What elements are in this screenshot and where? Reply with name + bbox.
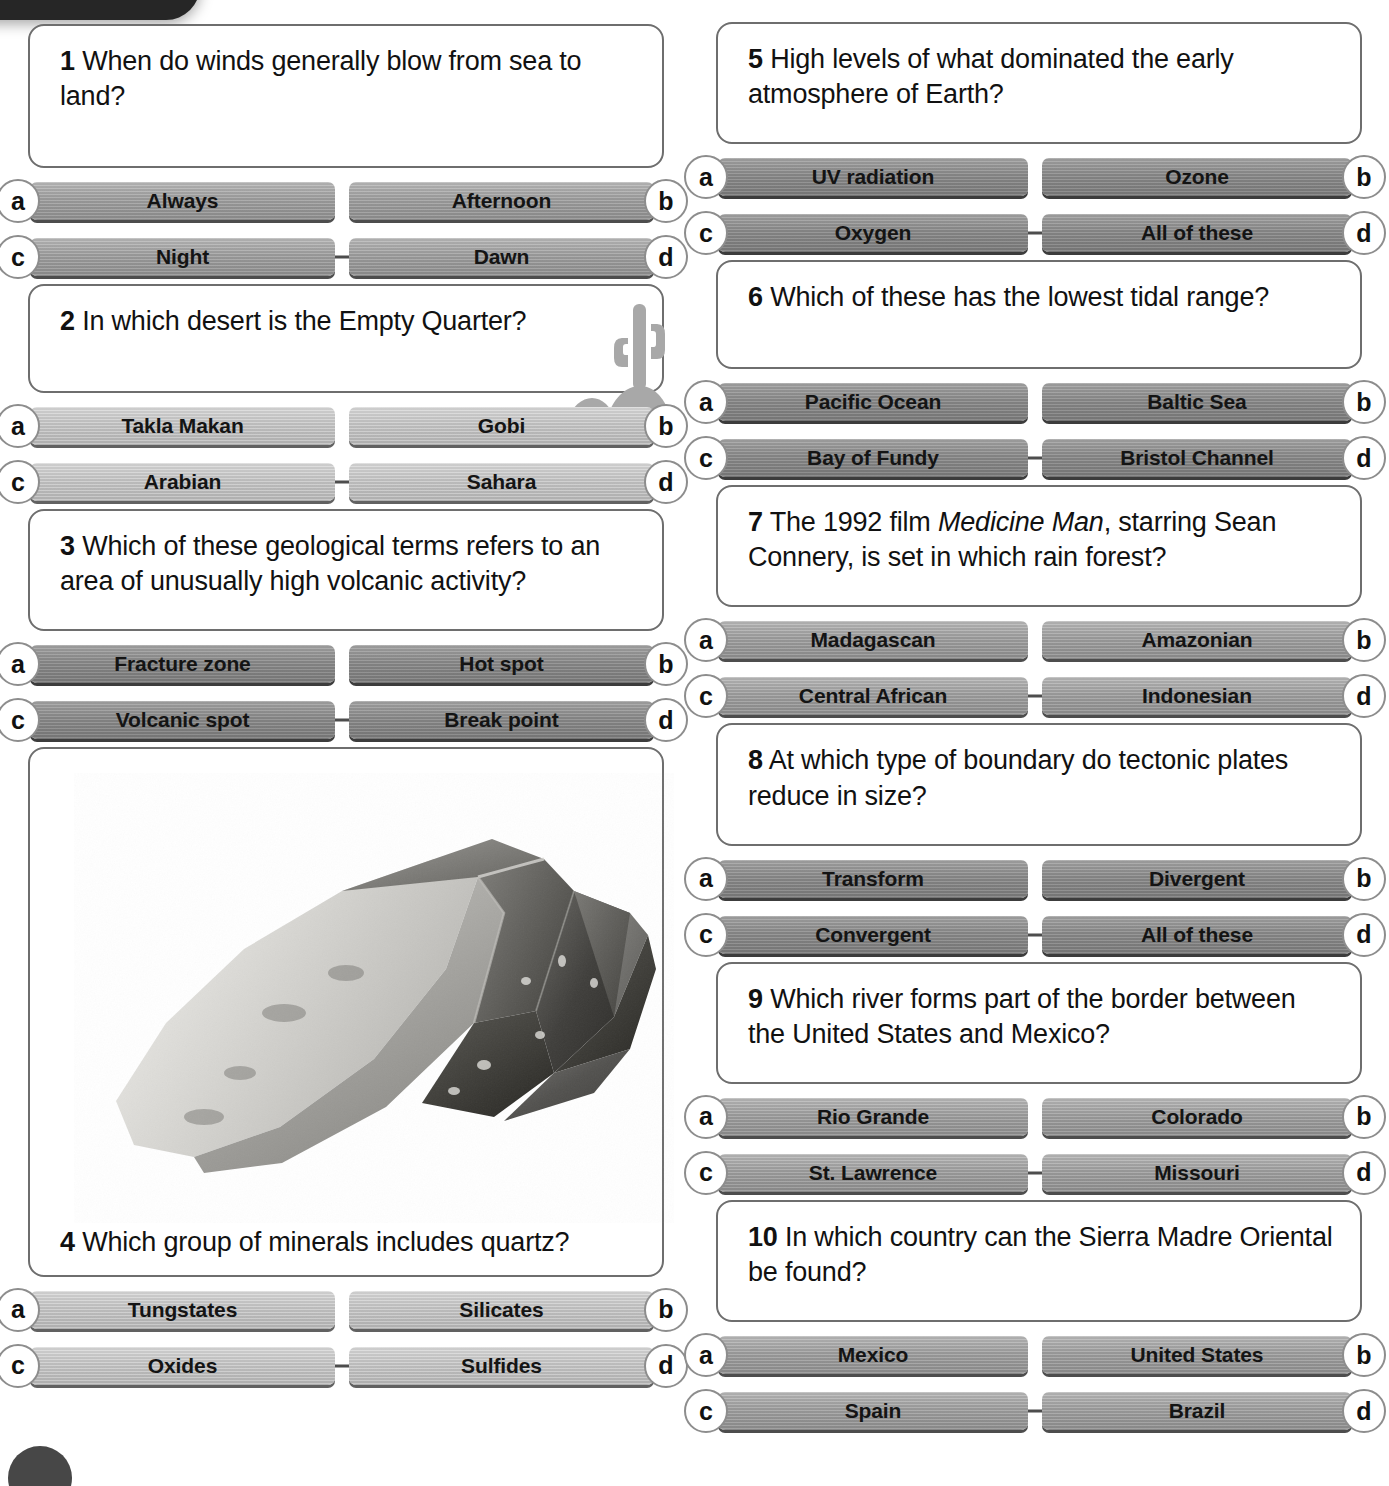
question-number: 8: [748, 745, 763, 775]
card-spacer: [748, 814, 1338, 844]
card-spacer: [748, 1290, 1338, 1320]
answer-button-c[interactable]: Night: [30, 238, 335, 276]
answer-button-d[interactable]: All of these: [1042, 214, 1352, 252]
answer-button-c[interactable]: Spain: [718, 1392, 1028, 1430]
answer-row: aPacific OceanBaltic Seab: [684, 375, 1386, 429]
answer-button-a[interactable]: Pacific Ocean: [718, 383, 1028, 421]
answer-row: cArabianSaharad: [0, 455, 688, 509]
option-badge-d: d: [644, 698, 688, 742]
question-text: 8 At which type of boundary do tectonic …: [748, 743, 1338, 813]
question-number: 5: [748, 44, 763, 74]
answer-button-c[interactable]: Bay of Fundy: [718, 439, 1028, 477]
option-badge-d: d: [1342, 913, 1386, 957]
answer-options: aUV radiationOzonebcOxygenAll of thesed: [684, 150, 1386, 260]
answer-button-b[interactable]: Afternoon: [349, 182, 654, 220]
question-text: 4 Which group of minerals includes quart…: [60, 1225, 640, 1260]
answer-row: cNightDawnd: [0, 230, 688, 284]
question-card: 10 In which country can the Sierra Madre…: [716, 1200, 1362, 1322]
question-illustration: [60, 763, 640, 1225]
answer-row: cVolcanic spotBreak pointd: [0, 693, 688, 747]
answer-options: aTakla MakanGobibcArabianSaharad: [0, 399, 688, 509]
card-spacer: [748, 575, 1338, 605]
answer-button-d[interactable]: All of these: [1042, 916, 1352, 954]
answer-button-a[interactable]: Transform: [718, 860, 1028, 898]
question-text-part: In which desert is the Empty Quarter?: [82, 306, 526, 336]
question-text-part: Which of these geological terms refers t…: [60, 531, 600, 596]
option-badge-b: b: [1342, 857, 1386, 901]
answer-button-a[interactable]: Takla Makan: [30, 407, 335, 445]
answer-button-c[interactable]: Central African: [718, 677, 1028, 715]
question-text: 2 In which desert is the Empty Quarter?: [60, 304, 640, 339]
quartz-crystal-photo: [74, 773, 674, 1223]
answer-button-d[interactable]: Sulfides: [349, 1347, 654, 1385]
card-spacer: [60, 599, 640, 629]
answer-button-b[interactable]: Ozone: [1042, 158, 1352, 196]
answer-button-b[interactable]: Amazonian: [1042, 621, 1352, 659]
option-badge-d: d: [644, 235, 688, 279]
answer-button-d[interactable]: Sahara: [349, 463, 654, 501]
question-text-italic: Medicine Man: [938, 507, 1104, 537]
answer-button-c[interactable]: Oxygen: [718, 214, 1028, 252]
question-number: 3: [60, 531, 75, 561]
option-badge-b: b: [644, 179, 688, 223]
question-card: 8 At which type of boundary do tectonic …: [716, 723, 1362, 845]
answer-options: aMadagascanAmazonianbcCentral AfricanInd…: [684, 613, 1386, 723]
quiz-columns: 1 When do winds generally blow from sea …: [0, 0, 1389, 1486]
option-badge-b: b: [1342, 1333, 1386, 1377]
answer-button-d[interactable]: Indonesian: [1042, 677, 1352, 715]
answer-button-d[interactable]: Missouri: [1042, 1154, 1352, 1192]
answer-button-a[interactable]: Rio Grande: [718, 1098, 1028, 1136]
answer-button-a[interactable]: Always: [30, 182, 335, 220]
answer-row: cSpainBrazild: [684, 1384, 1386, 1438]
answer-row: aAlwaysAfternoonb: [0, 174, 688, 228]
answer-button-b[interactable]: United States: [1042, 1336, 1352, 1374]
answer-button-c[interactable]: Convergent: [718, 916, 1028, 954]
answer-button-b[interactable]: Hot spot: [349, 645, 654, 683]
question-card: 6 Which of these has the lowest tidal ra…: [716, 260, 1362, 369]
answer-button-b[interactable]: Divergent: [1042, 860, 1352, 898]
answer-options: aPacific OceanBaltic SeabcBay of FundyBr…: [684, 375, 1386, 485]
answer-options: aAlwaysAfternoonbcNightDawnd: [0, 174, 688, 284]
option-badge-a: a: [684, 380, 728, 424]
answer-row: aMadagascanAmazonianb: [684, 613, 1386, 667]
option-badge-d: d: [1342, 1389, 1386, 1433]
option-badge-a: a: [684, 1333, 728, 1377]
answer-button-c[interactable]: Arabian: [30, 463, 335, 501]
option-badge-d: d: [1342, 436, 1386, 480]
answer-button-b[interactable]: Colorado: [1042, 1098, 1352, 1136]
option-badge-a: a: [0, 1288, 40, 1332]
question-number: 10: [748, 1222, 778, 1252]
answer-button-a[interactable]: Madagascan: [718, 621, 1028, 659]
answer-button-d[interactable]: Break point: [349, 701, 654, 739]
card-spacer: [748, 112, 1338, 142]
answer-row: cOxidesSulfidesd: [0, 1339, 688, 1393]
answer-button-d[interactable]: Bristol Channel: [1042, 439, 1352, 477]
answer-button-d[interactable]: Dawn: [349, 238, 654, 276]
card-spacer: [60, 114, 640, 166]
option-badge-c: c: [684, 913, 728, 957]
answer-button-d[interactable]: Brazil: [1042, 1392, 1352, 1430]
question-text-part: High levels of what dominated the early …: [748, 44, 1234, 109]
question-card: 4 Which group of minerals includes quart…: [28, 747, 664, 1276]
answer-button-b[interactable]: Silicates: [349, 1291, 654, 1329]
option-badge-d: d: [644, 460, 688, 504]
question-text: 5 High levels of what dominated the earl…: [748, 42, 1338, 112]
answer-button-a[interactable]: Mexico: [718, 1336, 1028, 1374]
answer-button-b[interactable]: Baltic Sea: [1042, 383, 1352, 421]
question-text-part: Which river forms part of the border bet…: [748, 984, 1296, 1049]
answer-button-a[interactable]: Fracture zone: [30, 645, 335, 683]
card-spacer: [60, 339, 640, 391]
answer-row: cSt. LawrenceMissourid: [684, 1146, 1386, 1200]
answer-button-c[interactable]: Volcanic spot: [30, 701, 335, 739]
answer-button-c[interactable]: Oxides: [30, 1347, 335, 1385]
answer-button-c[interactable]: St. Lawrence: [718, 1154, 1028, 1192]
question-text-part: Which of these has the lowest tidal rang…: [770, 282, 1269, 312]
question-card: 9 Which river forms part of the border b…: [716, 962, 1362, 1084]
answer-button-b[interactable]: Gobi: [349, 407, 654, 445]
option-badge-d: d: [644, 1344, 688, 1388]
answer-button-a[interactable]: UV radiation: [718, 158, 1028, 196]
question-text-part: At which type of boundary do tectonic pl…: [748, 745, 1288, 810]
answer-button-a[interactable]: Tungstates: [30, 1291, 335, 1329]
option-badge-b: b: [1342, 1095, 1386, 1139]
option-badge-a: a: [684, 1095, 728, 1139]
